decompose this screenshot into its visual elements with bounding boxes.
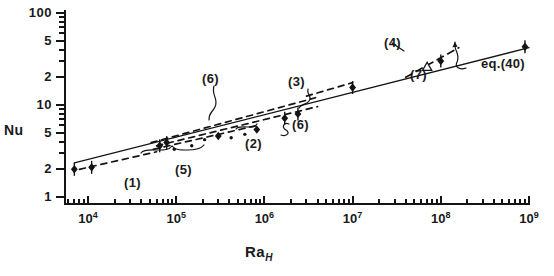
marker-dot	[203, 138, 206, 141]
chart-figure: 1005210521 104105106107108109 Nu RaH (1)…	[0, 0, 554, 276]
marker-filled	[281, 114, 288, 122]
series-line-6	[151, 98, 315, 143]
leader-6b	[281, 124, 289, 136]
annotation-ann-6b: (6)	[292, 118, 309, 131]
brace-5	[141, 145, 204, 153]
annotation-ann-7: (7)	[410, 68, 427, 81]
data-point	[71, 163, 78, 176]
annotation-ann-eq40: eq.(40)	[481, 57, 525, 70]
marker-filled	[88, 163, 95, 171]
annotation-ann-1: (1)	[124, 176, 141, 189]
annotation-ann-3: (3)	[288, 75, 305, 88]
marker-dot	[229, 136, 232, 139]
annotation-ann-5: (5)	[175, 163, 192, 176]
data-point	[229, 136, 232, 139]
annotation-ann-2: (2)	[245, 137, 262, 150]
leader-6a	[209, 86, 216, 120]
marker-filled	[349, 83, 356, 91]
annotation-ann-6a: (6)	[202, 72, 219, 85]
data-point	[522, 40, 529, 53]
data-point	[203, 138, 206, 141]
marker-filled	[71, 165, 78, 173]
data-point	[88, 161, 95, 174]
annotation-ann-4: (4)	[384, 36, 401, 49]
plot-area	[0, 0, 554, 276]
marker-dot	[190, 144, 193, 147]
eq40-arrowhead	[452, 42, 457, 47]
data-point	[190, 144, 193, 147]
